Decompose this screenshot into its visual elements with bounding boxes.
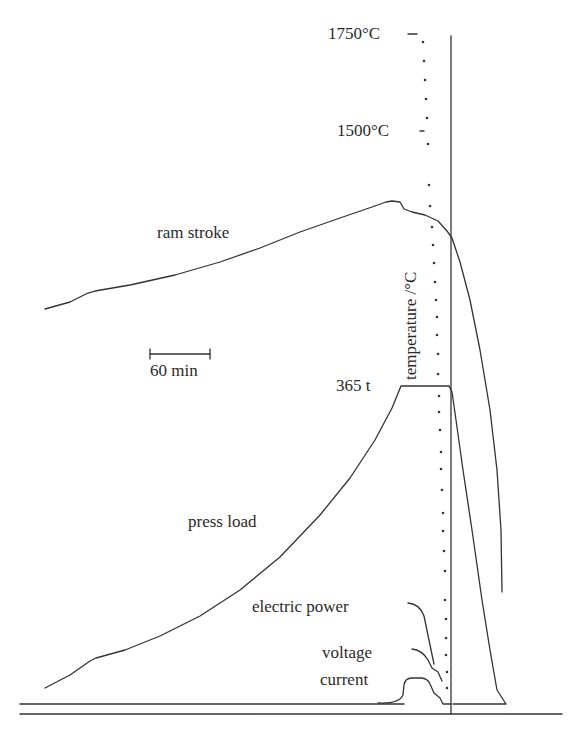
electric-power-label: electric power [252,598,349,615]
chart-canvas [0,0,581,731]
temp-tick-label-1750: 1750°C [328,25,380,42]
scale-bar-label: 60 min [150,362,198,379]
ram-stroke-curve [45,201,502,592]
temp-tick-label-1500: 1500°C [337,122,389,139]
electric-power-curve [408,603,434,664]
current-label: current [320,671,368,688]
ram-stroke-label: ram stroke [157,224,229,241]
current-curve [378,678,451,704]
max-load-label: 365 t [336,377,370,394]
press-load-label: press load [188,513,256,530]
voltage-curve [412,649,442,681]
scale-bar [150,349,210,359]
temperature-dotted-curve [422,41,449,690]
press-load-curve [45,386,506,704]
temperature-axis-label: temperature /°C [402,272,419,380]
voltage-label: voltage [322,644,372,661]
